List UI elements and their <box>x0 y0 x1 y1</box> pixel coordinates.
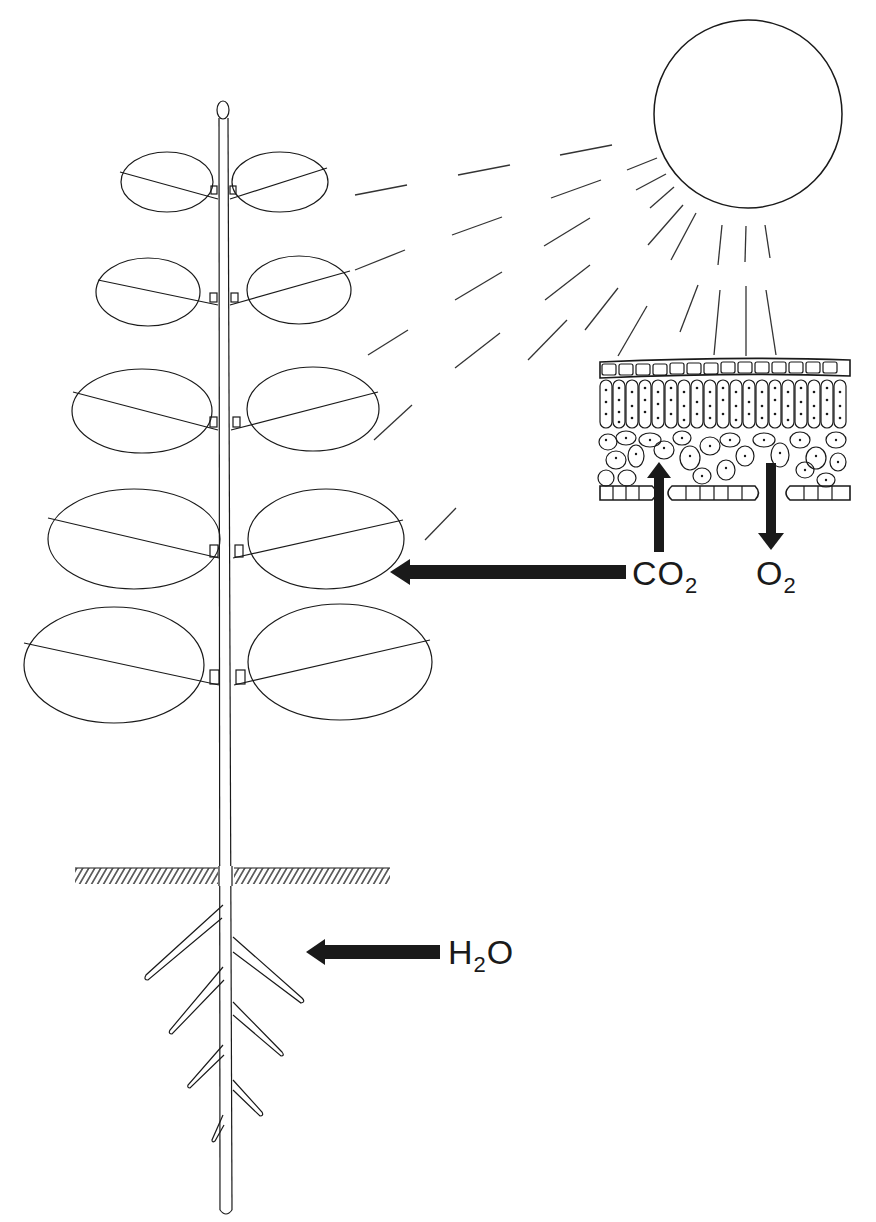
chloroplasts <box>605 387 842 424</box>
sun <box>654 20 842 208</box>
co2-label-main: CO <box>632 554 685 592</box>
photosynthesis-diagram <box>0 0 876 1222</box>
upper-epidermis-cells <box>602 362 837 375</box>
o2-down-arrow <box>758 463 784 550</box>
leaf-cross-section <box>598 358 850 500</box>
co2-label: CO2 <box>632 556 698 590</box>
o2-label-main: O <box>756 554 783 592</box>
h2o-label: H2O <box>448 935 514 969</box>
leaf-pair-4 <box>48 489 404 589</box>
leaf-pair-2 <box>96 256 351 326</box>
lower-epidermis <box>600 486 850 500</box>
plant <box>24 101 432 1214</box>
co2-up-arrow <box>647 462 671 552</box>
terminal-bud <box>217 101 229 119</box>
h2o-left-arrow <box>306 939 440 965</box>
h2o-label-main: H <box>448 933 474 971</box>
co2-label-subscript: 2 <box>685 573 698 598</box>
leaf-pair-5 <box>24 604 432 723</box>
o2-label-subscript: 2 <box>783 573 796 598</box>
roots <box>145 905 304 1142</box>
arrows <box>306 462 784 965</box>
o2-label: O2 <box>756 556 797 590</box>
leaf-pair-3 <box>72 367 379 453</box>
h2o-label-suffix: O <box>487 933 514 971</box>
stem <box>219 118 232 1214</box>
spongy-mesophyll-cells <box>598 431 846 487</box>
co2-left-arrow <box>390 559 626 585</box>
soil-surface <box>75 866 390 886</box>
h2o-label-subscript: 2 <box>474 952 487 977</box>
leaf-pair-1 <box>120 152 328 212</box>
sun-rays <box>355 145 776 540</box>
